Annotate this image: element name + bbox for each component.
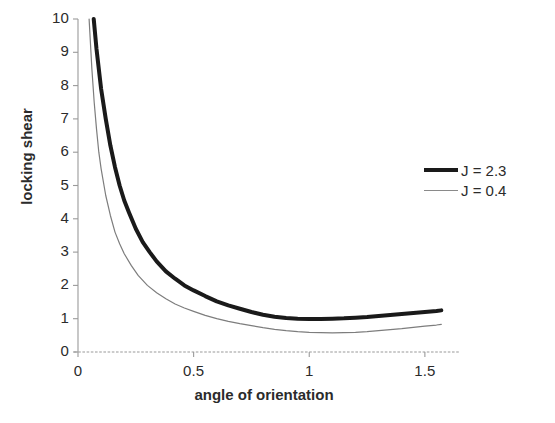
legend-line-thick-icon [424,164,458,176]
legend-line-thin-icon [424,184,458,196]
plot-area [0,0,555,423]
chart-figure: 012345678910 00.511.5 locking shear angl… [0,0,555,423]
y-tick-label: 0 [35,342,69,359]
y-tick-label: 4 [35,209,69,226]
x-tick-label: 1.5 [402,362,448,379]
y-tick-label: 1 [35,309,69,326]
x-tick-label: 0 [55,362,101,379]
axis-lines [74,19,460,352]
y-axis-title: locking shear [18,97,35,217]
chart-legend: J = 2.3 J = 0.4 [424,160,550,200]
legend-label-j04: J = 0.4 [458,182,506,199]
x-tick-marks [78,352,425,357]
y-tick-marks [73,19,78,352]
series-line [89,19,441,333]
x-axis-title: angle of orientation [78,386,450,403]
x-tick-label: 1 [286,362,332,379]
y-tick-label: 3 [35,242,69,259]
legend-label-j23: J = 2.3 [458,162,506,179]
y-tick-label: 5 [35,176,69,193]
y-tick-label: 9 [35,42,69,59]
series-line [94,19,442,319]
y-tick-label: 2 [35,275,69,292]
y-tick-label: 6 [35,142,69,159]
y-tick-label: 10 [35,9,69,26]
y-tick-label: 8 [35,76,69,93]
y-tick-label: 7 [35,109,69,126]
data-series-group [89,19,441,333]
legend-item-j23: J = 2.3 [424,160,550,180]
legend-item-j04: J = 0.4 [424,180,550,200]
x-tick-label: 0.5 [171,362,217,379]
